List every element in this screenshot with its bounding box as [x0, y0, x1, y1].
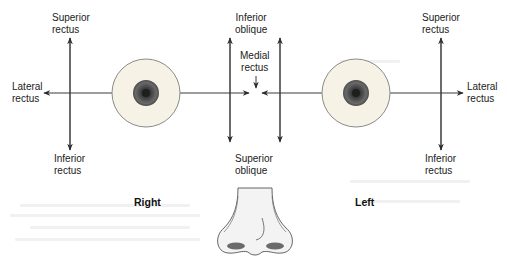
diagram-canvas: Superior rectus Lateral rectus Inferior … — [0, 0, 507, 259]
left-lateral-rectus-label: Lateral rectus — [467, 81, 498, 105]
inferior-oblique-label: Inferior oblique — [235, 12, 267, 36]
nostril-icon — [266, 243, 284, 250]
diagram-svg — [0, 0, 507, 259]
left-inferior-rectus-label: Inferior rectus — [425, 153, 456, 177]
left-pupil-icon — [352, 89, 360, 97]
left-superior-rectus-label: Superior rectus — [422, 12, 460, 36]
right-eye-group — [44, 38, 249, 150]
left-eye-group — [262, 38, 463, 150]
right-side-label: Right — [134, 196, 161, 208]
right-pupil-icon — [142, 89, 150, 97]
left-side-label: Left — [355, 196, 374, 208]
superior-oblique-label: Superior oblique — [235, 153, 273, 177]
right-inferior-rectus-label: Inferior rectus — [54, 153, 85, 177]
medial-rectus-label: Medial rectus — [240, 50, 269, 74]
nostril-icon — [227, 243, 245, 250]
nose-icon — [218, 188, 293, 255]
right-superior-rectus-label: Superior rectus — [52, 12, 90, 36]
right-lateral-rectus-label: Lateral rectus — [12, 81, 43, 105]
